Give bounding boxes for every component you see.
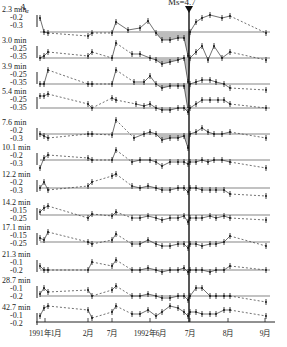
data-point xyxy=(39,95,41,97)
data-segment xyxy=(116,260,132,270)
data-point xyxy=(91,51,93,53)
data-point xyxy=(47,305,49,307)
data-point xyxy=(115,69,117,71)
data-point xyxy=(155,161,157,163)
data-point xyxy=(39,167,41,169)
data-segment xyxy=(216,310,224,314)
data-point xyxy=(139,187,141,189)
data-point xyxy=(265,195,267,197)
data-point xyxy=(183,57,185,59)
data-segment xyxy=(230,104,266,108)
data-point xyxy=(47,189,49,191)
data-point xyxy=(131,243,133,245)
data-point xyxy=(161,63,163,65)
data-segment xyxy=(202,288,210,296)
data-segment xyxy=(202,244,210,246)
data-segment xyxy=(40,18,44,32)
data-point xyxy=(43,269,45,271)
data-segment xyxy=(140,54,150,58)
data-segment xyxy=(190,22,196,32)
data-point xyxy=(47,51,49,53)
data-point xyxy=(39,187,41,189)
data-point xyxy=(155,269,157,271)
data-segment xyxy=(184,216,188,222)
data-point xyxy=(155,133,157,135)
data-point xyxy=(265,137,267,139)
data-segment xyxy=(224,236,230,242)
series-row: 17.1 min-0.15-0.25 xyxy=(2,223,270,251)
data-segment xyxy=(222,16,230,18)
data-segment xyxy=(224,100,230,104)
data-point xyxy=(183,243,185,245)
data-point xyxy=(215,81,217,83)
data-point xyxy=(195,311,197,313)
data-segment xyxy=(48,94,88,104)
data-point xyxy=(229,309,231,311)
data-segment xyxy=(210,216,216,218)
data-segment xyxy=(128,28,140,30)
data-segment xyxy=(112,306,116,312)
data-point xyxy=(183,267,185,269)
data-point xyxy=(201,79,203,81)
data-point xyxy=(115,119,117,121)
data-segment xyxy=(196,46,202,52)
data-point xyxy=(177,307,179,309)
data-point xyxy=(177,137,179,139)
data-segment xyxy=(116,70,134,82)
data-point xyxy=(87,83,89,85)
data-point xyxy=(195,161,197,163)
data-point xyxy=(43,55,45,57)
y-tick-label: -0.35 xyxy=(10,103,27,112)
data-point xyxy=(155,217,157,219)
data-point xyxy=(195,287,197,289)
data-point xyxy=(115,259,117,261)
data-point xyxy=(201,217,203,219)
data-point xyxy=(265,107,267,109)
data-point xyxy=(195,21,197,23)
data-point xyxy=(139,53,141,55)
y-tick-label: -0.25 xyxy=(10,214,27,223)
data-segment xyxy=(178,308,184,312)
data-point xyxy=(217,99,219,101)
data-point xyxy=(183,295,185,297)
data-point xyxy=(143,105,145,107)
data-point xyxy=(195,217,197,219)
data-point xyxy=(207,59,209,61)
data-point xyxy=(91,295,93,297)
data-point xyxy=(223,295,225,297)
data-point xyxy=(111,175,113,177)
data-point xyxy=(147,215,149,217)
data-segment xyxy=(112,234,116,240)
data-point xyxy=(177,161,179,163)
data-point xyxy=(169,85,171,87)
data-point xyxy=(87,157,89,159)
data-segment xyxy=(40,182,44,188)
data-segment xyxy=(116,174,132,186)
data-point xyxy=(115,42,117,44)
x-tick-label: 7月 xyxy=(185,329,196,338)
data-point xyxy=(111,32,113,34)
data-point xyxy=(209,295,211,297)
data-point xyxy=(177,269,179,271)
data-point xyxy=(229,235,231,237)
data-point xyxy=(39,211,41,213)
data-point xyxy=(91,181,93,183)
data-segment xyxy=(92,52,112,58)
data-segment xyxy=(144,104,150,106)
data-point xyxy=(183,85,185,87)
data-segment xyxy=(202,128,208,132)
data-point xyxy=(91,159,93,161)
data-point xyxy=(111,239,113,241)
data-point xyxy=(43,83,45,85)
data-point xyxy=(169,189,171,191)
data-point xyxy=(215,295,217,297)
data-point xyxy=(207,131,209,133)
data-point xyxy=(183,215,185,217)
data-point xyxy=(47,291,49,293)
data-point xyxy=(265,301,267,303)
y-tick-label: -0.35 xyxy=(10,52,27,61)
data-point xyxy=(161,297,163,299)
data-point xyxy=(229,295,231,297)
data-point xyxy=(213,159,215,161)
data-segment xyxy=(156,218,162,220)
